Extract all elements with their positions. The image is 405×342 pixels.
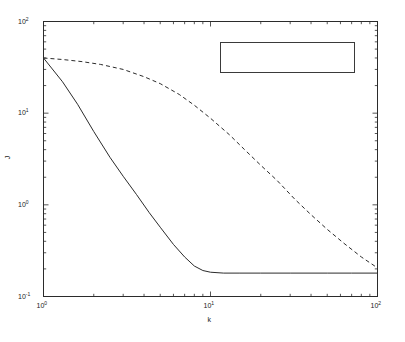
y-tick-label-0-1: 102 (18, 18, 29, 25)
legend: Conjugate Gradient Gradient (220, 42, 355, 73)
y-axis-title: J (4, 156, 11, 160)
x-axis-title: k (208, 316, 212, 323)
y-tick-label-100: 10-1 (18, 293, 30, 300)
x-tick-label-10: 101 (204, 302, 215, 309)
y-tick-label-10: 100 (18, 201, 29, 208)
x-tick-label-100: 102 (371, 302, 382, 309)
x-tick-label-1: 100 (37, 302, 48, 309)
y-tick-label-1: 101 (18, 109, 29, 116)
figure-canvas: 10-1 100 101 102 100 101 102 k J Conjuga… (0, 0, 405, 342)
